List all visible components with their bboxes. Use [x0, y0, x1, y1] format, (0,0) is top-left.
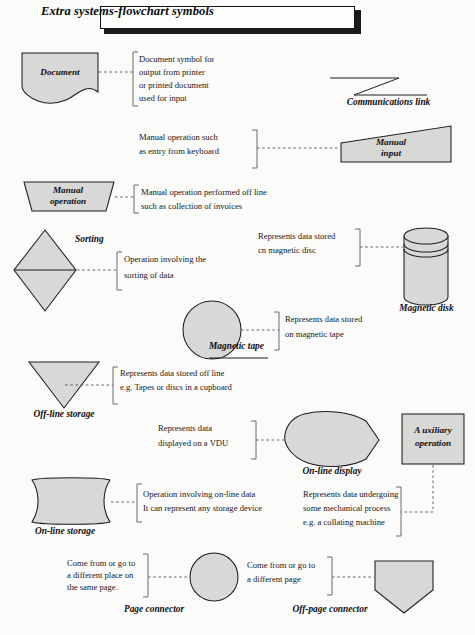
on-line-display-symbol [285, 412, 379, 467]
manual-input-annotation-line-2: as entry from keyboard [139, 146, 219, 158]
communications-link-label: Communications link [316, 97, 461, 108]
on-line-storage-bracket [137, 484, 142, 522]
document-annotation-line-2: output from printer [139, 67, 205, 79]
magnetic-disk-body [404, 236, 448, 305]
manual-input-bracket [252, 130, 257, 168]
off-page-connector-label: Off-page connector [260, 604, 400, 615]
on-line-display-bracket [251, 421, 256, 459]
manual-operation-bracket [134, 185, 139, 213]
page-connector-label: Page connector [94, 604, 214, 615]
off-line-storage-symbol [29, 362, 99, 408]
manual-input-label-line-2: input [341, 148, 441, 159]
magnetic-disk-annotation-line-2: cn magnetic disc [258, 245, 316, 257]
on-line-storage-symbol [32, 478, 110, 525]
off-page-connector-annotation-line-1: Come from or go to [247, 560, 315, 572]
manual-operation-annotation-line-1: Manual operation performed off line [141, 187, 267, 199]
flowchart-symbols-page: Extra systems-flowchart symbols .sh { fi… [0, 0, 475, 635]
manual-operation-label-line-1: Manual [24, 185, 112, 196]
communications-link-symbol [330, 78, 427, 95]
off-page-connector-annotation-line-2: a different page [247, 574, 301, 586]
off-line-storage-annotation-line-2: e.g. Tapes or discs in a cupboard [120, 382, 232, 394]
manual-input-label-line-1: Manual [341, 137, 441, 148]
document-annotation-line-1: Document symbol for [139, 54, 214, 66]
page-connector-annotation-line-3: the same page. [67, 582, 118, 594]
magnetic-disk-top [404, 228, 448, 244]
on-line-storage-label: On-line storage [9, 526, 121, 537]
on-line-display-annotation-line-1: Represents data [158, 423, 212, 435]
magnetic-disk-annotation-line-1: Represents data stored [258, 231, 335, 243]
auxiliary-operation-label-line-1: A uxiliary [402, 425, 464, 436]
manual-operation-label-line-2: operation [24, 196, 112, 207]
document-symbol [22, 53, 98, 103]
sorting-annotation-line-2: sorting of data [124, 270, 174, 282]
manual-input-annotation-line-1: Manual operation such [139, 132, 218, 144]
on-line-display-annotation-line-2: displayed on a VDU [158, 438, 228, 450]
document-annotation-line-3: or printed document [139, 80, 209, 92]
auxiliary-operation-annotation-line-2: some mechanical process [303, 503, 390, 515]
off-line-storage-annotation-line-1: Represents data stored off line [120, 368, 224, 380]
document-label: Document [22, 67, 98, 78]
sorting-label: Sorting [75, 234, 155, 245]
magnetic-disk-bracket [355, 229, 360, 266]
page-connector-annotation-line-2: a different place on [67, 570, 133, 582]
on-line-storage-annotation-line-1: Operation involving on-line data [143, 489, 255, 501]
auxiliary-operation-annotation-line-3: e.g. a collating machine [303, 517, 385, 529]
document-bracket [133, 52, 138, 106]
page-connector-bracket [143, 554, 148, 597]
off-line-storage-bracket [113, 367, 118, 404]
page-connector-symbol [190, 553, 238, 601]
off-page-connector-bracket [327, 557, 332, 595]
magnetic-tape-annotation-line-2: on magnetic tape [285, 329, 344, 341]
auxiliary-operation-annotation-line-1: Represents data undergoing [303, 489, 398, 501]
sorting-annotation-line-1: Operation involving the [124, 254, 206, 266]
manual-operation-annotation-line-2: such as collection of invoices [141, 201, 242, 213]
document-annotation-line-4: used for input [139, 93, 187, 105]
off-line-storage-label: Off-line storage [9, 409, 119, 420]
page-connector-annotation-line-1: Come from or go to [67, 558, 135, 570]
magnetic-tape-label: Magnetic tape [209, 341, 304, 352]
on-line-display-label: On-line display [281, 466, 383, 477]
magnetic-tape-annotation-line-1: Represents data stored [285, 314, 362, 326]
magnetic-disk-label: Magnetic disk [378, 303, 475, 314]
on-line-storage-annotation-line-2: It can represent any storage device [143, 503, 262, 515]
sorting-bracket [117, 252, 122, 290]
symbols-canvas: .sh { fill:#d8d8d6; stroke:#1d1d1f; stro… [0, 0, 475, 635]
auxiliary-operation-label-line-2: operation [402, 438, 464, 449]
